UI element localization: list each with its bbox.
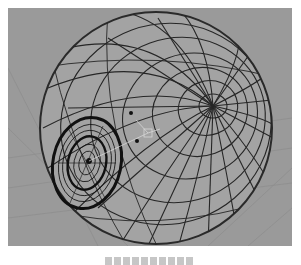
3d-viewport[interactable] bbox=[8, 8, 292, 246]
figure-caption bbox=[0, 252, 301, 265]
caption-text-cropped bbox=[105, 257, 195, 265]
wireframe-scene bbox=[8, 8, 292, 246]
